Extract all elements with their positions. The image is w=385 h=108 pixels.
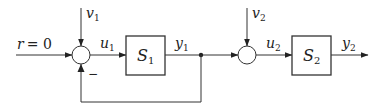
input-signal-r: r= 0 — [16, 36, 72, 55]
u1-label: u1 — [100, 35, 115, 53]
u2-label: u2 — [266, 35, 281, 53]
v1-label: v1 — [86, 5, 100, 23]
block-s1: S1 — [126, 36, 165, 75]
summing-junction-1 — [72, 46, 90, 64]
signal-y1: y1 — [165, 35, 238, 57]
disturbance-v2: v2 — [247, 5, 266, 46]
y2-label: y2 — [341, 35, 356, 53]
summing-junction-2 — [238, 46, 256, 64]
block-s2: S2 — [292, 36, 331, 75]
feedback-minus-sign: − — [88, 67, 98, 81]
block-diagram: r= 0 v1 − u1 S1 y1 v2 — [0, 0, 385, 108]
y1-label: y1 — [174, 35, 189, 53]
signal-y2: y2 — [331, 35, 368, 55]
feedback-arrowhead — [78, 64, 85, 72]
disturbance-v1: v1 — [81, 5, 100, 46]
signal-u2: u2 — [256, 35, 292, 55]
v2-label: v2 — [252, 5, 266, 23]
signal-u1: u1 — [90, 35, 126, 55]
input-label: r= 0 — [17, 36, 52, 52]
